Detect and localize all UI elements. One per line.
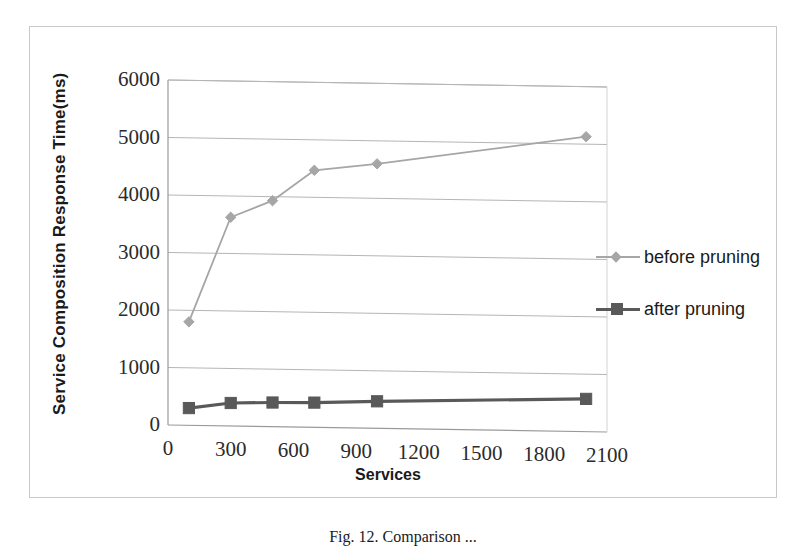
x-tick-label: 1500: [461, 443, 503, 464]
figure-caption: Fig. 12. Comparison ...: [0, 528, 806, 546]
x-tick-label: 600: [278, 440, 310, 461]
gridlines: [168, 80, 607, 375]
legend-label: after pruning: [644, 299, 745, 320]
x-tick-label: 0: [163, 438, 174, 459]
y-tick-label: 4000: [118, 184, 160, 205]
data-point: [581, 393, 592, 404]
y-tick-label: 3000: [118, 242, 160, 263]
legend-entry[interactable]: before pruning: [596, 238, 796, 276]
data-point: [267, 397, 278, 408]
y-tick-label: 5000: [118, 127, 160, 148]
data-point: [225, 397, 236, 408]
gridline-4000: [168, 195, 607, 202]
x-axis-line: [168, 425, 607, 432]
x-axis-title: Services: [168, 466, 608, 484]
x-tick-label: 1200: [398, 442, 440, 463]
data-point: [371, 396, 382, 407]
data-point: [183, 402, 194, 413]
square-marker-icon: [611, 303, 623, 315]
series-line: [189, 399, 586, 408]
series-after-pruning: [183, 393, 591, 413]
x-tick-label: 1800: [523, 444, 565, 465]
chart-legend: before pruningafter pruning: [596, 238, 796, 342]
gridline-1000: [168, 368, 607, 375]
y-tick-label: 1000: [118, 357, 160, 378]
y-tick-label: 0: [150, 414, 161, 435]
y-axis-title: Service Composition Response Time(ms): [50, 85, 70, 415]
data-point: [184, 317, 194, 327]
legend-entry[interactable]: after pruning: [596, 290, 796, 328]
x-tick-label: 300: [215, 439, 247, 460]
plot-top-border: [168, 80, 607, 87]
gridline-5000: [168, 138, 607, 145]
x-axis-tick-labels: 03006009001200150018002100: [0, 436, 806, 466]
data-point: [581, 131, 591, 141]
x-tick-label: 900: [340, 441, 372, 462]
x-tick-label: 2100: [586, 445, 628, 466]
data-point: [309, 397, 320, 408]
data-point: [226, 212, 236, 222]
legend-swatch: [596, 249, 640, 265]
data-point: [372, 159, 382, 169]
legend-label: before pruning: [644, 247, 760, 268]
gridline-3000: [168, 253, 607, 260]
legend-swatch: [596, 301, 640, 317]
y-tick-label: 2000: [118, 299, 160, 320]
diamond-marker-icon: [610, 251, 621, 262]
series-before-pruning: [184, 131, 592, 327]
gridline-2000: [168, 310, 607, 317]
y-tick-label: 6000: [118, 69, 160, 90]
series-line: [189, 137, 586, 322]
